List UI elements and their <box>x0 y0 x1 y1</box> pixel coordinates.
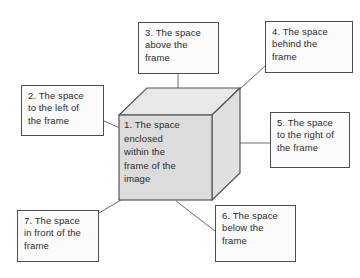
callout-box-behind-frame[interactable]: 4. The space behind the frame <box>265 21 353 73</box>
callout-box-above-frame[interactable]: 3. The space above the frame <box>138 22 219 74</box>
callout-box-right-of-frame[interactable]: 5. The space to the right of the frame <box>270 112 350 168</box>
connector-line-below-space <box>176 201 215 231</box>
connector-line-front-space <box>99 200 121 213</box>
callout-box-below-frame[interactable]: 6. The space below the frame <box>215 205 296 262</box>
callout-label-enclosed-space: 1. The space enclosed within the frame o… <box>124 118 206 186</box>
connector-line-behind-space <box>240 66 265 89</box>
callout-box-left-of-frame[interactable]: 2. The space to the left of the frame <box>21 85 104 136</box>
callout-box-in-front-of-frame[interactable]: 7. The space in front of the frame <box>17 210 99 262</box>
diagram-canvas: 1. The space enclosed within the frame o… <box>0 0 360 278</box>
connector-line-left-space <box>104 121 120 128</box>
